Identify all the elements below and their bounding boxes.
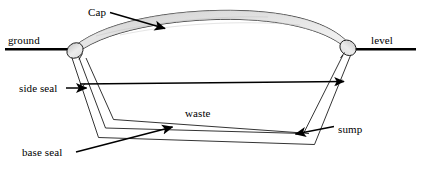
sump-leader <box>296 127 335 135</box>
diagram-canvas <box>0 0 423 170</box>
inner-waste-basin <box>78 55 343 134</box>
label-side-seal: side seal <box>19 83 57 94</box>
outer-seal-liner <box>70 51 353 145</box>
label-base-seal: base seal <box>22 147 62 158</box>
label-ground: ground <box>8 35 40 46</box>
label-sump: sump <box>338 124 362 135</box>
side-seal-wall <box>86 58 303 133</box>
label-waste: waste <box>185 108 211 119</box>
label-level: level <box>371 35 393 46</box>
cap-band <box>64 10 359 61</box>
landfill-cross-section-diagram: Cap ground level side seal waste sump ba… <box>0 0 423 170</box>
span-arrow <box>80 82 344 85</box>
label-cap: Cap <box>88 7 106 18</box>
